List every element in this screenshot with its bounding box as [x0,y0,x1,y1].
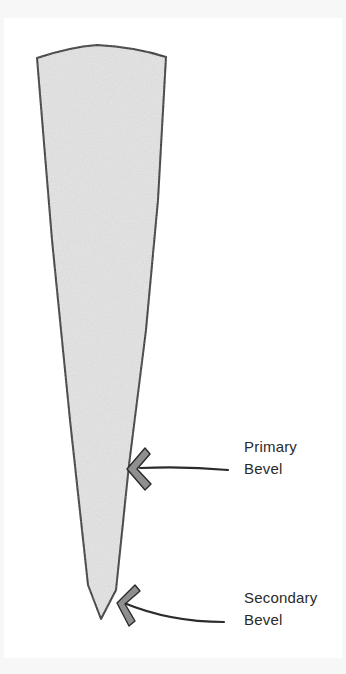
primary-bevel-label: Primary Bevel [244,436,297,480]
secondary-arrow-shaft [124,603,224,622]
secondary-bevel-label: Secondary Bevel [244,587,318,631]
primary-bevel-label-line2: Bevel [244,458,297,480]
primary-arrow-shaft [140,467,228,470]
primary-bevel-label-line1: Primary [244,436,297,458]
secondary-bevel-label-line2: Bevel [244,609,318,631]
blade-shape [37,45,166,619]
blade-diagram [0,0,346,674]
secondary-bevel-label-line1: Secondary [244,587,318,609]
